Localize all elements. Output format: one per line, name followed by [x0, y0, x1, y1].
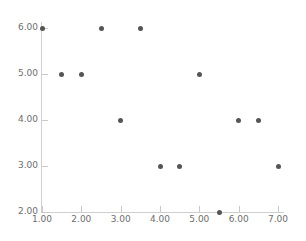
x-tick-label: 1.00: [22, 215, 62, 224]
data-point: [40, 26, 45, 31]
x-tick-label: 7.00: [258, 215, 298, 224]
data-point: [79, 72, 84, 77]
data-point: [236, 118, 241, 123]
scatter-chart: 2.003.004.005.006.00 1.002.003.004.005.0…: [0, 0, 306, 241]
data-point: [99, 26, 104, 31]
data-point: [177, 164, 182, 169]
data-point: [197, 72, 202, 77]
y-tick-label: 3.00: [18, 161, 38, 170]
y-tick-label: 4.00: [18, 115, 38, 124]
x-tick-label: 3.00: [101, 215, 141, 224]
y-tick-mark: [42, 212, 48, 213]
plot-area: [42, 28, 278, 212]
x-tick-label: 4.00: [140, 215, 180, 224]
x-tick-label: 2.00: [61, 215, 101, 224]
x-tick-label: 6.00: [219, 215, 259, 224]
y-tick-label: 5.00: [18, 69, 38, 78]
data-point: [138, 26, 143, 31]
y-tick-label: 6.00: [18, 23, 38, 32]
data-point: [59, 72, 64, 77]
data-point: [217, 210, 222, 215]
x-axis-spine: [42, 212, 284, 213]
x-tick-label: 5.00: [179, 215, 219, 224]
x-tick-mark: [278, 206, 279, 212]
data-point: [256, 118, 261, 123]
data-point: [276, 164, 281, 169]
data-point: [158, 164, 163, 169]
data-point: [118, 118, 123, 123]
